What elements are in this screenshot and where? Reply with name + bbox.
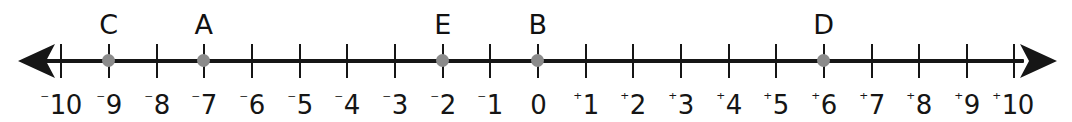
- tick-mark: [1013, 44, 1015, 78]
- tick-mark: [346, 44, 348, 78]
- sign-glyph: ⁻: [239, 89, 248, 109]
- sign-glyph: ⁺: [811, 89, 820, 109]
- tick-mark: [680, 44, 682, 78]
- point-dot-d: [817, 54, 830, 67]
- digits: 0: [530, 90, 546, 120]
- sign-glyph: ⁻: [334, 89, 343, 109]
- sign-glyph: ⁻: [430, 89, 439, 109]
- point-dot-b: [531, 54, 544, 67]
- tick-mark: [632, 44, 634, 78]
- sign-glyph: ⁺: [992, 89, 1001, 109]
- point-label-d: D: [794, 11, 854, 38]
- tick-mark: [728, 44, 730, 78]
- tick-mark: [918, 44, 920, 78]
- point-label-e: E: [413, 11, 473, 38]
- tick-mark: [251, 44, 253, 78]
- tick-mark: [394, 44, 396, 78]
- number-line-figure: C A E B D ⁻10 ⁻9 ⁻8 ⁻7 ⁻6 ⁻5 ⁻4 ⁻3 ⁻2 ⁻1…: [0, 0, 1072, 122]
- sign-glyph: ⁺: [573, 89, 582, 109]
- sign-glyph: ⁺: [668, 89, 677, 109]
- sign-glyph: ⁺: [954, 89, 963, 109]
- point-label-c: C: [79, 11, 139, 38]
- sign-glyph: ⁻: [191, 89, 200, 109]
- sign-glyph: ⁻: [40, 89, 49, 109]
- tick-label-10: ⁺10: [973, 86, 1053, 118]
- tick-mark: [871, 44, 873, 78]
- sign-glyph: ⁺: [620, 89, 629, 109]
- sign-glyph: ⁺: [906, 89, 915, 109]
- tick-mark: [299, 44, 301, 78]
- tick-mark: [585, 44, 587, 78]
- sign-glyph: ⁺: [716, 89, 725, 109]
- tick-mark: [489, 44, 491, 78]
- point-label-a: A: [174, 11, 234, 38]
- tick-mark: [966, 44, 968, 78]
- point-dot-c: [102, 54, 115, 67]
- sign-glyph: ⁻: [96, 89, 105, 109]
- tick-mark: [156, 44, 158, 78]
- point-dot-e: [436, 54, 449, 67]
- tick-mark: [60, 44, 62, 78]
- point-dot-a: [197, 54, 210, 67]
- sign-glyph: ⁺: [763, 89, 772, 109]
- sign-glyph: ⁻: [477, 89, 486, 109]
- digits: 10: [1002, 90, 1034, 120]
- sign-glyph: ⁻: [382, 89, 391, 109]
- point-label-b: B: [508, 11, 568, 38]
- sign-glyph: ⁺: [859, 89, 868, 109]
- sign-glyph: ⁻: [144, 89, 153, 109]
- sign-glyph: ⁻: [287, 89, 296, 109]
- tick-mark: [775, 44, 777, 78]
